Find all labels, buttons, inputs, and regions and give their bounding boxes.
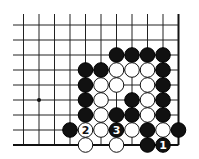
black-stone (78, 108, 93, 123)
white-stone-disc (94, 93, 109, 108)
black-stone (125, 108, 140, 123)
black-stone-disc (78, 78, 93, 93)
go-board-diagram: 231 (0, 0, 199, 159)
black-stone-disc (156, 48, 171, 63)
white-stone-disc (125, 63, 140, 78)
black-stone (156, 108, 171, 123)
white-stone (109, 138, 124, 153)
black-stone-disc (94, 63, 109, 78)
black-stone (140, 138, 155, 153)
white-stone (109, 63, 124, 78)
black-stone-disc (109, 48, 124, 63)
black-stone-disc (156, 108, 171, 123)
black-stone-disc (125, 48, 140, 63)
black-stone (125, 93, 140, 108)
star-point (37, 98, 41, 102)
white-stone-disc (140, 93, 155, 108)
white-stone-disc (78, 138, 93, 153)
white-stone (94, 78, 109, 93)
black-stone (109, 108, 124, 123)
black-stone-disc (78, 93, 93, 108)
black-stone (78, 63, 93, 78)
black-stone (109, 48, 124, 63)
move-number-label: 3 (113, 124, 121, 137)
white-stone (140, 108, 155, 123)
white-stone (94, 123, 109, 138)
black-stone-disc (78, 63, 93, 78)
white-stone (94, 108, 109, 123)
white-stone (94, 93, 109, 108)
white-stone (156, 123, 171, 138)
black-stone (78, 78, 93, 93)
black-stone (63, 123, 78, 138)
black-stone-disc (171, 123, 186, 138)
black-stone-disc (63, 123, 78, 138)
black-stone: 1 (156, 138, 171, 153)
white-stone-disc (156, 123, 171, 138)
black-stone (156, 63, 171, 78)
white-stone (78, 138, 93, 153)
black-stone-disc (156, 63, 171, 78)
move-number-label: 1 (159, 139, 167, 152)
black-stone (125, 48, 140, 63)
black-stone-disc (140, 138, 155, 153)
black-stone-disc (125, 93, 140, 108)
white-stone-disc (109, 78, 124, 93)
white-stone (140, 78, 155, 93)
white-stone-disc (140, 78, 155, 93)
white-stone-disc (140, 108, 155, 123)
white-stone: 2 (78, 123, 93, 138)
white-stone-disc (125, 123, 140, 138)
move-number-label: 2 (82, 124, 90, 137)
white-stone-disc (94, 78, 109, 93)
black-stone (140, 48, 155, 63)
white-stone (125, 63, 140, 78)
black-stone (140, 123, 155, 138)
black-stone (156, 93, 171, 108)
black-stone (156, 48, 171, 63)
black-stone-disc (156, 78, 171, 93)
white-stone (109, 78, 124, 93)
black-stone-disc (109, 108, 124, 123)
black-stone-disc (156, 93, 171, 108)
black-stone (94, 63, 109, 78)
stones: 231 (63, 48, 186, 153)
white-stone (140, 93, 155, 108)
white-stone-disc (94, 108, 109, 123)
black-stone-disc (140, 123, 155, 138)
white-stone-disc (109, 138, 124, 153)
black-stone (156, 78, 171, 93)
white-stone-disc (109, 63, 124, 78)
white-stone-disc (140, 63, 155, 78)
black-stone (171, 123, 186, 138)
white-stone-disc (94, 123, 109, 138)
black-stone-disc (125, 108, 140, 123)
white-stone (140, 63, 155, 78)
black-stone: 3 (109, 123, 124, 138)
white-stone (125, 123, 140, 138)
star-points (37, 98, 41, 102)
black-stone-disc (78, 108, 93, 123)
black-stone (78, 93, 93, 108)
black-stone-disc (140, 48, 155, 63)
